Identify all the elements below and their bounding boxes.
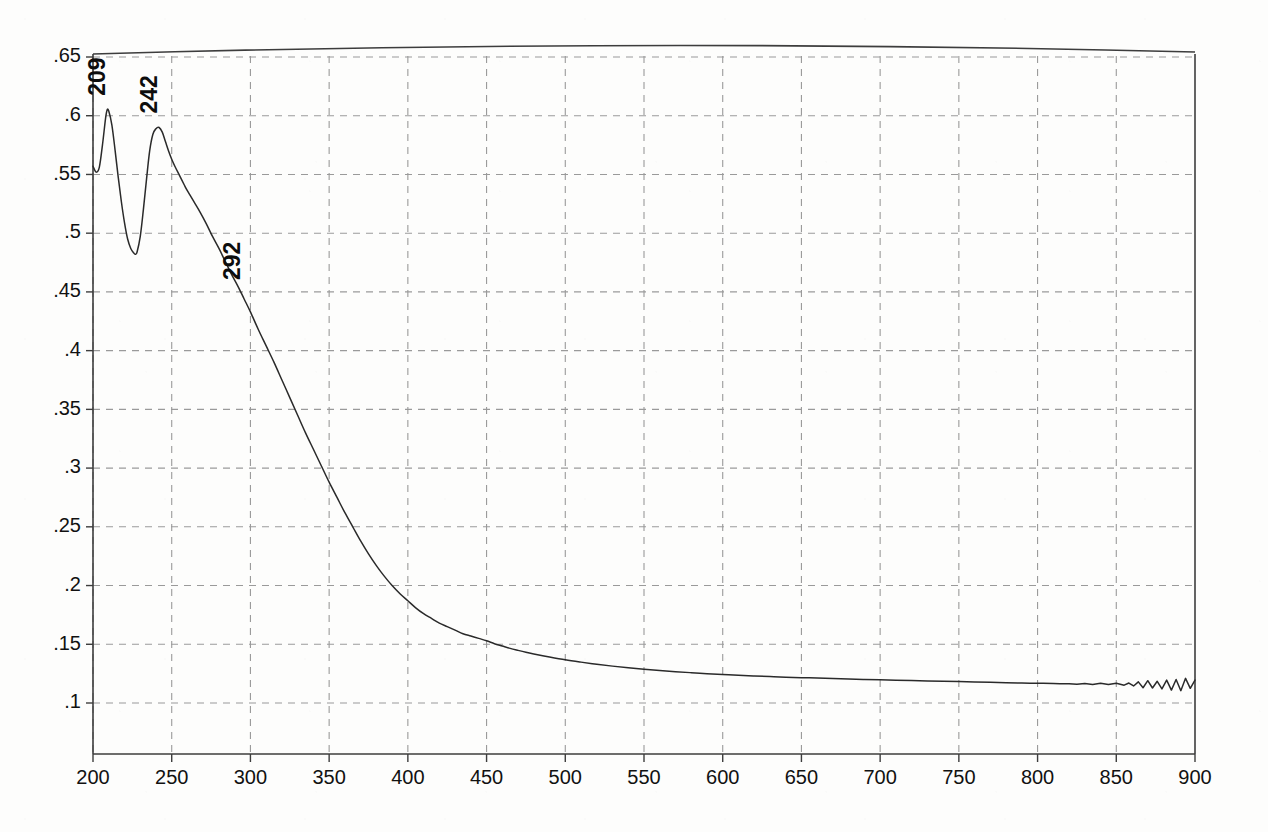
x-tick-label: 800 xyxy=(1021,766,1054,788)
x-tick-label: 200 xyxy=(76,766,109,788)
x-tick-label: 400 xyxy=(391,766,424,788)
peak-label-292: 292 xyxy=(219,242,245,280)
y-tick-label: .15 xyxy=(53,632,81,654)
x-tick-label: 900 xyxy=(1178,766,1211,788)
y-tick-label: .55 xyxy=(53,162,81,184)
y-tick-label: .45 xyxy=(53,279,81,301)
x-tick-label: 650 xyxy=(785,766,818,788)
spectrum-chart: .1.15.2.25.3.35.4.45.5.55.6.65 200250300… xyxy=(0,0,1268,832)
y-tick-label: .4 xyxy=(64,338,81,360)
y-tick-label: .5 xyxy=(64,220,81,242)
x-axis-tick-labels: 2002503003504004505005506006507007508008… xyxy=(76,766,1211,788)
peak-label-209: 209 xyxy=(84,57,110,95)
y-tick-label: .25 xyxy=(53,514,81,536)
x-tick-label: 750 xyxy=(942,766,975,788)
x-tick-label: 350 xyxy=(312,766,345,788)
chart-svg: .1.15.2.25.3.35.4.45.5.55.6.65 200250300… xyxy=(0,0,1268,832)
x-tick-label: 450 xyxy=(470,766,503,788)
peak-annotations: 209242292 xyxy=(84,57,245,280)
y-tick-label: .1 xyxy=(64,690,81,712)
peak-label-242: 242 xyxy=(136,75,162,113)
y-tick-label: .3 xyxy=(64,455,81,477)
x-tick-label: 850 xyxy=(1100,766,1133,788)
x-tick-label: 250 xyxy=(155,766,188,788)
plot-top-border xyxy=(93,45,1195,54)
y-tick-label: .35 xyxy=(53,397,81,419)
y-tick-label: .2 xyxy=(64,573,81,595)
x-tick-label: 300 xyxy=(234,766,267,788)
grid-layer xyxy=(93,56,1195,754)
x-tick-label: 600 xyxy=(706,766,739,788)
y-tick-label: .6 xyxy=(64,103,81,125)
x-tick-label: 700 xyxy=(863,766,896,788)
y-axis-tick-labels: .1.15.2.25.3.35.4.45.5.55.6.65 xyxy=(53,44,81,712)
x-tick-label: 550 xyxy=(627,766,660,788)
x-tick-label: 500 xyxy=(549,766,582,788)
y-tick-label: .65 xyxy=(53,44,81,66)
